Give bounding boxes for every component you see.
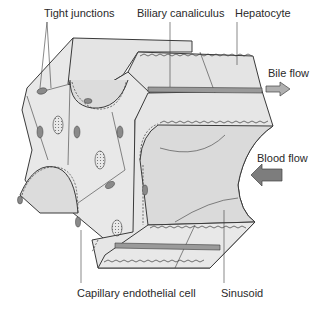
label-blood-flow: Blood flow	[257, 153, 308, 164]
label-hepatocyte: Hepatocyte	[235, 8, 291, 19]
label-capillary-endothelial-cell: Capillary endothelial cell	[77, 288, 196, 299]
blood-flow-arrow	[251, 164, 282, 186]
label-bile-flow: Bile flow	[268, 68, 309, 79]
label-biliary-canaliculus: Biliary canaliculus	[137, 8, 224, 19]
label-sinusoid: Sinusoid	[221, 288, 263, 299]
bile-flow-arrow	[266, 82, 290, 96]
label-tight-junctions: Tight junctions	[44, 8, 115, 19]
